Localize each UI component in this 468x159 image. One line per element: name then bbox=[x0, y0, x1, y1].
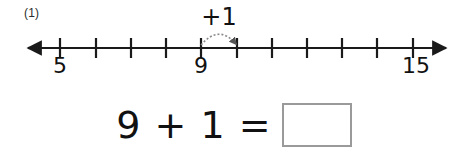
jump-arc-icon bbox=[201, 34, 236, 45]
answer-input-box[interactable] bbox=[282, 103, 352, 147]
tick-label-nine: 9 bbox=[171, 55, 231, 77]
worksheet-problem: (1) bbox=[0, 0, 468, 159]
tick-label-end: 15 bbox=[386, 55, 446, 77]
equation-expression: 9 + 1 = bbox=[116, 103, 271, 147]
tick-label-start: 5 bbox=[30, 55, 90, 77]
equation-row: 9 + 1 = bbox=[0, 96, 468, 154]
jump-amount-label: +1 bbox=[189, 4, 249, 30]
